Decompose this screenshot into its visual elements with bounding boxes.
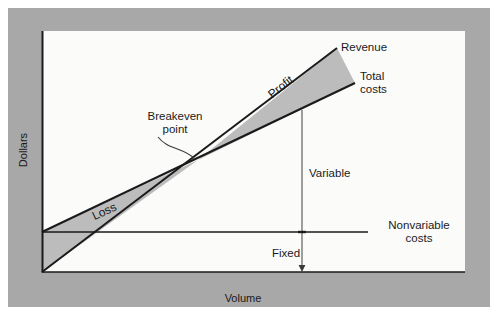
breakeven-point-label-line1: Breakeven <box>148 110 203 122</box>
total-costs-label-line2: costs <box>360 83 387 95</box>
breakeven-point-label-line2: point <box>163 123 189 135</box>
fixed-label: Fixed <box>272 247 300 259</box>
x-axis-label: Volume <box>225 292 262 304</box>
plot-area <box>42 31 465 272</box>
y-axis-label: Dollars <box>17 132 29 167</box>
nonvariable-costs-label-line2: costs <box>406 232 433 244</box>
nonvariable-costs-label-line1: Nonvariable <box>388 219 449 231</box>
figure-canvas: Dollars Volume Breakeven point Revenue T… <box>0 0 500 317</box>
revenue-label: Revenue <box>341 41 387 53</box>
total-costs-label-line1: Total <box>360 70 384 82</box>
variable-label: Variable <box>309 167 350 179</box>
